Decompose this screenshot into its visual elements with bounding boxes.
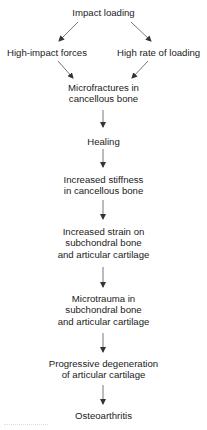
node-text: cancellous bone	[0, 93, 207, 104]
node-text: Microfractures in	[0, 82, 207, 93]
node-microfractures: Microfractures in cancellous bone	[0, 82, 207, 105]
node-progressive-degeneration: Progressive degeneration of articular ca…	[0, 358, 207, 381]
arrow-impact-to-rate	[131, 22, 151, 41]
node-text: and articular cartilage	[0, 316, 207, 327]
arrow-impact-to-forces	[59, 22, 78, 41]
node-text: Healing	[0, 136, 207, 147]
faint-artifact	[4, 424, 48, 428]
node-text: Impact loading	[0, 7, 207, 18]
arrow-forces-to-microfractures	[58, 61, 73, 78]
node-text: Progressive degeneration	[0, 358, 207, 369]
node-increased-stiffness: Increased stiffness in cancellous bone	[0, 174, 207, 197]
node-text: subchondral bone	[0, 237, 207, 248]
node-text: High rate of loading	[117, 47, 200, 58]
node-text: subchondral bone	[0, 304, 207, 315]
node-high-rate-of-loading: High rate of loading	[117, 47, 200, 58]
node-text: of articular cartilage	[0, 369, 207, 380]
node-impact-loading: Impact loading	[0, 7, 207, 18]
node-healing: Healing	[0, 136, 207, 147]
node-increased-strain: Increased strain on subchondral bone and…	[0, 226, 207, 260]
node-text: Osteoarthritis	[0, 410, 207, 421]
node-text: Increased stiffness	[0, 174, 207, 185]
node-high-impact-forces: High-impact forces	[7, 47, 87, 58]
node-text: High-impact forces	[7, 47, 87, 58]
arrow-rate-to-microfractures	[132, 61, 148, 78]
node-text: and articular cartilage	[0, 249, 207, 260]
node-microtrauma: Microtrauma in subchondral bone and arti…	[0, 293, 207, 327]
node-text: Microtrauma in	[0, 293, 207, 304]
node-text: in cancellous bone	[0, 185, 207, 196]
node-osteoarthritis: Osteoarthritis	[0, 410, 207, 421]
node-text: Increased strain on	[0, 226, 207, 237]
